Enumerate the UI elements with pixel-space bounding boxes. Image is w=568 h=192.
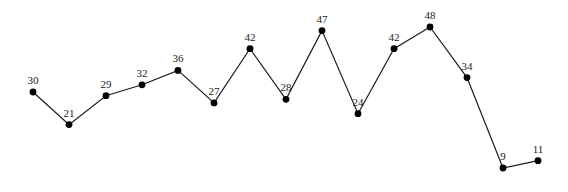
data-point [535,157,542,164]
data-label: 34 [462,60,474,72]
data-point [103,92,110,99]
data-point [139,81,146,88]
data-point [500,165,507,172]
data-point [427,24,434,31]
data-point [175,67,182,74]
data-label: 24 [353,96,365,108]
data-point [391,45,398,52]
data-label: 48 [425,9,437,21]
data-label: 36 [173,52,185,64]
data-label: 9 [500,150,506,162]
data-point [30,89,37,96]
data-label: 42 [245,31,256,43]
data-labels: 30212932362742284724424834911 [28,9,544,162]
data-label: 42 [389,31,400,43]
data-label: 30 [28,74,40,86]
data-label: 29 [101,78,113,90]
data-point [211,100,218,107]
data-point [319,27,326,34]
data-point [66,121,73,128]
data-point [464,74,471,81]
line-chart: 30212932362742284724424834911 [0,0,568,192]
data-point [355,110,362,117]
data-label: 27 [209,85,221,97]
data-label: 28 [281,81,293,93]
data-point [283,96,290,103]
data-label: 32 [137,67,148,79]
data-markers [30,24,542,172]
data-label: 21 [64,107,75,119]
data-label: 11 [533,143,544,155]
data-point [247,45,254,52]
data-label: 47 [317,13,329,25]
